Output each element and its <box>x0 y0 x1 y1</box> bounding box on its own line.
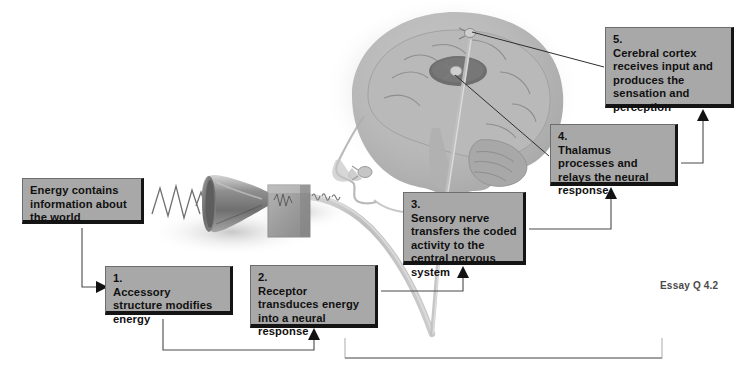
box-thalamus-text: Thalamus processes and relays the neural… <box>558 144 664 198</box>
box-accessory: 1.Accessory structure modifies energy <box>105 266 233 315</box>
box-receptor-number: 2. <box>258 271 270 285</box>
box-thalamus-inner: 4.Thalamus processes and relays the neur… <box>551 125 675 202</box>
box-receptor-inner: 2.Receptor transduces energy into a neur… <box>251 266 375 343</box>
box-accessory-number: 1. <box>113 272 125 286</box>
box-sensory-nerve: 3.Sensory nerve transfers the coded acti… <box>403 192 526 265</box>
box-energy-inner: Energy contains information about the wo… <box>23 179 141 229</box>
box-sensory-nerve-inner: 3.Sensory nerve transfers the coded acti… <box>404 193 523 284</box>
essay-question-label: Essay Q 4.2 <box>660 280 718 291</box>
box-accessory-text: Accessory structure modifies energy <box>113 286 219 327</box>
box-cerebral-cortex-inner: 5.Cerebral cortex receives input and pro… <box>606 28 731 119</box>
box-thalamus-number: 4. <box>558 130 570 144</box>
box-energy-text: Energy contains information about the wo… <box>30 184 135 225</box>
box-receptor: 2.Receptor transduces energy into a neur… <box>250 265 378 328</box>
box-cerebral-cortex: 5.Cerebral cortex receives input and pro… <box>605 27 734 108</box>
figure-canvas: Energy contains information about the wo… <box>0 0 745 368</box>
box-sensory-nerve-number: 3. <box>411 198 423 212</box>
box-accessory-inner: 1.Accessory structure modifies energy <box>106 267 230 330</box>
box-thalamus: 4.Thalamus processes and relays the neur… <box>550 124 678 186</box>
box-receptor-text: Receptor transduces energy into a neural… <box>258 285 364 339</box>
box-cerebral-cortex-number: 5. <box>613 33 625 47</box>
box-energy: Energy contains information about the wo… <box>22 178 144 224</box>
box-sensory-nerve-text: Sensory nerve transfers the coded activi… <box>411 212 517 280</box>
box-cerebral-cortex-text: Cerebral cortex receives input and produ… <box>613 47 719 115</box>
